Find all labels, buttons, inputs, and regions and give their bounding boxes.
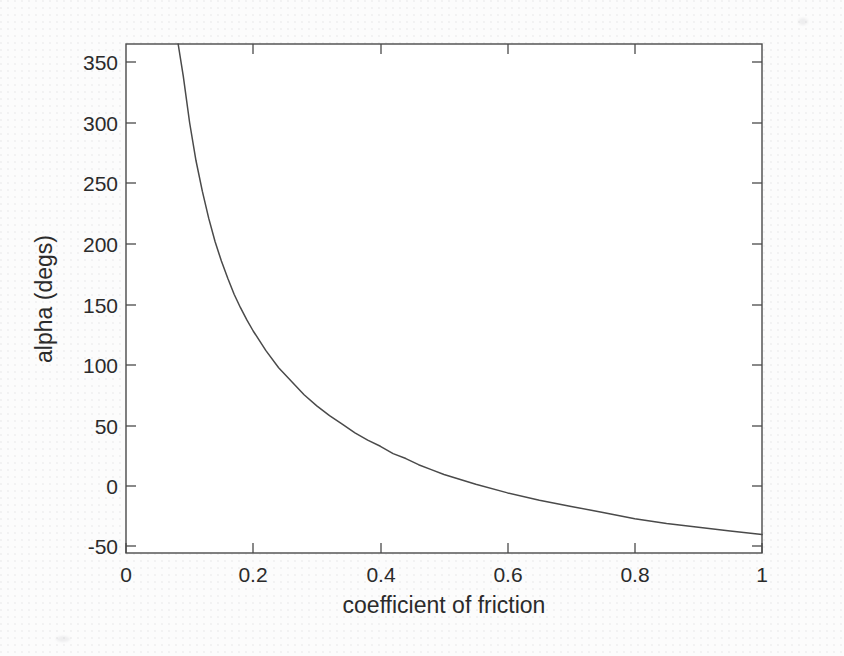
y-tick-label: 350 bbox=[83, 51, 118, 74]
x-tick-label: 0.8 bbox=[620, 563, 649, 586]
y-axis-title: alpha (degs) bbox=[31, 235, 57, 363]
x-tick-label: 0.2 bbox=[238, 563, 267, 586]
x-axis-title: coefficient of friction bbox=[343, 592, 546, 618]
figure-page: 350 300 250 200 150 100 50 0 -50 0 0.2 0… bbox=[0, 0, 844, 656]
y-tick-label: 250 bbox=[83, 172, 118, 195]
y-tick-label: 150 bbox=[83, 294, 118, 317]
y-tick-label: 300 bbox=[83, 112, 118, 135]
x-tick-labels: 0 0.2 0.4 0.6 0.8 1 bbox=[120, 563, 768, 586]
chart-figure: 350 300 250 200 150 100 50 0 -50 0 0.2 0… bbox=[0, 0, 844, 656]
y-tick-label: 200 bbox=[83, 233, 118, 256]
plot-frame bbox=[126, 44, 762, 553]
y-tick-labels: 350 300 250 200 150 100 50 0 -50 bbox=[83, 51, 118, 558]
x-tick-label: 1 bbox=[756, 563, 768, 586]
y-tick-label: 50 bbox=[95, 415, 118, 438]
x-tick-label: 0.6 bbox=[493, 563, 522, 586]
plot-area bbox=[126, 44, 762, 553]
x-tick-label: 0.4 bbox=[366, 563, 396, 586]
y-tick-label: 100 bbox=[83, 354, 118, 377]
y-tick-label: -50 bbox=[88, 535, 118, 558]
y-tick-label: 0 bbox=[106, 475, 118, 498]
line-chart: 350 300 250 200 150 100 50 0 -50 0 0.2 0… bbox=[0, 0, 844, 656]
x-tick-label: 0 bbox=[120, 563, 132, 586]
